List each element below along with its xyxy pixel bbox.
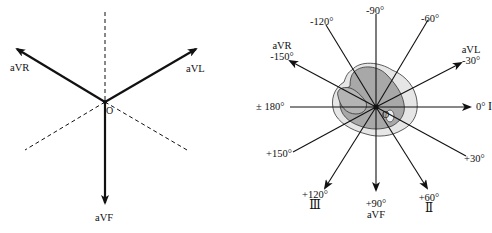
label-plus-30: +30°	[464, 153, 485, 164]
label-avf: aVF	[95, 212, 113, 223]
angle-minus-30: -30°	[454, 55, 488, 66]
label-avr: aVR	[10, 62, 29, 73]
origin-point	[103, 100, 107, 104]
avr-arrow	[17, 49, 105, 102]
dashed-axis-lower-right	[105, 102, 187, 150]
label-origin-right: O	[382, 109, 389, 120]
label-minus-60: -60°	[421, 13, 439, 24]
angle-0: 0°	[476, 101, 485, 112]
label-avf-plus-90: +90° aVF	[360, 198, 392, 220]
label-plus-minus-180: ± 180°	[256, 101, 284, 112]
label-origin: O	[106, 105, 113, 116]
angle-minus-150: -150°	[262, 51, 302, 62]
label-plus-150: +150°	[266, 148, 292, 159]
heart-illustration	[332, 63, 417, 136]
dashed-axis-lower-left	[25, 102, 105, 150]
label-avr-minus-150: aVR -150°	[262, 40, 302, 62]
label-minus-90: -90°	[366, 5, 384, 16]
label-avl-minus-30: aVL -30°	[454, 44, 488, 66]
label-lead-ii-plus-60: +60° Ⅱ	[414, 192, 444, 214]
right-diagram	[290, 14, 470, 190]
angle-plus-90: +90°	[360, 198, 392, 209]
label-0-deg: 0° I	[476, 101, 492, 112]
lead-avf: aVF	[360, 209, 392, 220]
label-lead-iii-plus-120: +120° Ⅲ	[298, 189, 332, 211]
lead-iii: Ⅲ	[298, 200, 332, 211]
label-minus-120: -120°	[310, 16, 333, 27]
lead-ii: Ⅱ	[414, 203, 444, 214]
lead-avr: aVR	[262, 40, 302, 51]
lead-avl: aVL	[454, 44, 488, 55]
origin-point	[374, 105, 379, 110]
label-avl: aVL	[186, 63, 205, 74]
avl-arrow	[105, 49, 196, 102]
lead-i: I	[488, 99, 492, 113]
